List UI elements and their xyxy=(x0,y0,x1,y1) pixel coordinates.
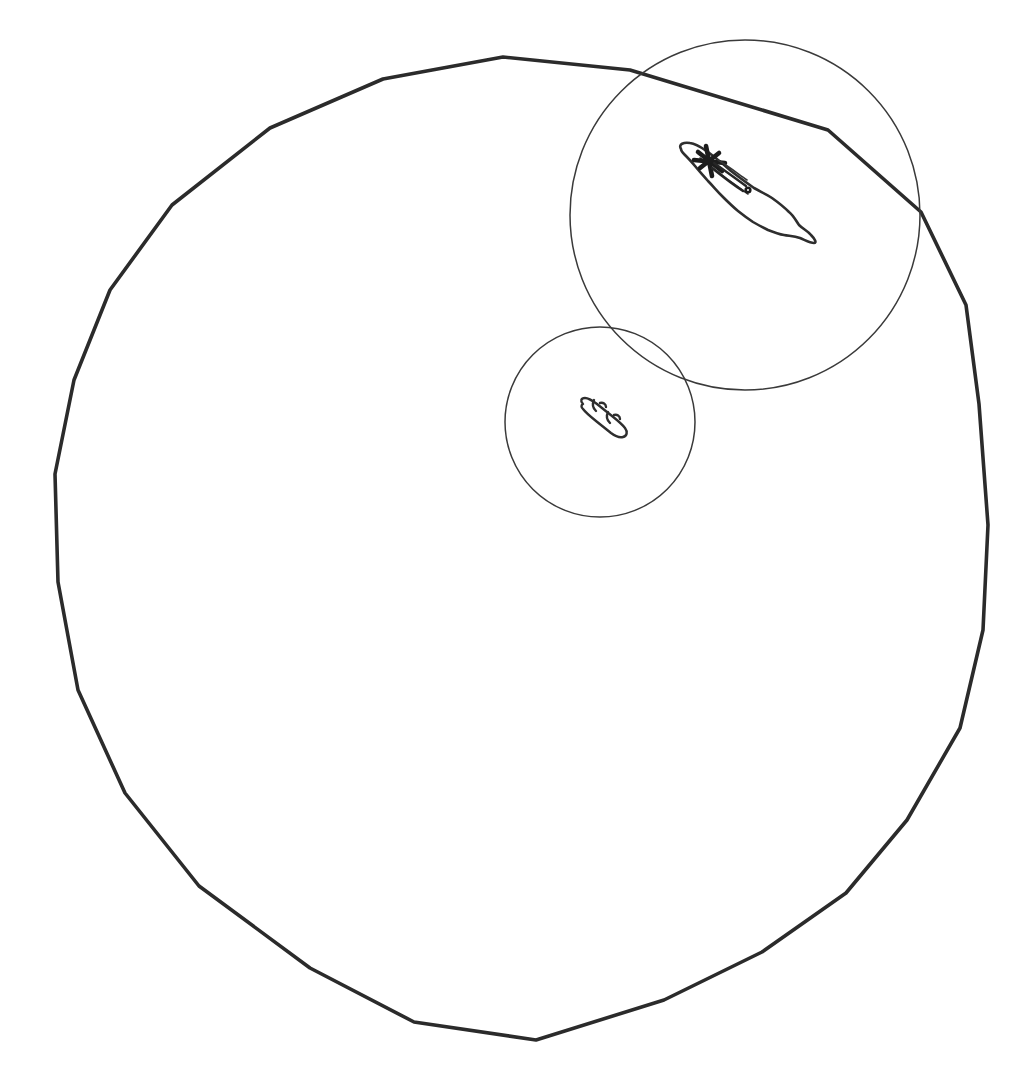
sketch-canvas xyxy=(0,0,1015,1073)
blob-tail-end-dot xyxy=(747,189,750,192)
sketch-drawing xyxy=(0,0,1015,1073)
